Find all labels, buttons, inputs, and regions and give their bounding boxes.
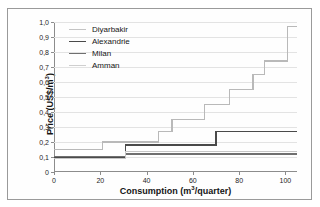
x-tick-label: 60 — [189, 177, 197, 184]
legend-swatch-icon — [69, 53, 86, 54]
y-tick-label: 0,9 — [39, 34, 49, 41]
y-tick-label: 0,8 — [39, 49, 49, 56]
x-tick-mark — [54, 172, 55, 175]
x-tick-label: 40 — [143, 177, 151, 184]
x-tick-mark — [147, 172, 148, 175]
y-tick-label: 0,5 — [39, 94, 49, 101]
x-tick-mark — [193, 172, 194, 175]
legend-label: Amman — [92, 61, 120, 70]
series-line-milan — [54, 154, 297, 156]
x-tick-mark — [285, 172, 286, 175]
legend-swatch-icon — [69, 41, 86, 42]
x-tick-mark — [239, 172, 240, 175]
x-axis-title: Consumption (m3/quarter) — [54, 185, 297, 196]
y-tick-label: 0,3 — [39, 124, 49, 131]
legend-swatch-icon — [69, 65, 86, 66]
y-tick-label: 0,7 — [39, 64, 49, 71]
y-tick-label: 0,2 — [39, 139, 49, 146]
y-tick-label: 0,6 — [39, 79, 49, 86]
y-tick-label: 1,0 — [39, 19, 49, 26]
legend-label: Diyarbakir — [92, 25, 128, 34]
legend-item-alexandrie: Alexandrie — [69, 35, 159, 47]
y-tick-label: 0,1 — [39, 154, 49, 161]
figure-frame: Price (US$/m3) Consumption (m3/quarter) … — [7, 8, 312, 200]
x-tick-label: 80 — [235, 177, 243, 184]
legend-item-diyarbakir: Diyarbakir — [69, 23, 159, 35]
x-tick-mark — [100, 172, 101, 175]
y-tick-label: 0 — [45, 169, 49, 176]
legend-swatch-icon — [69, 29, 86, 30]
legend-label: Milan — [92, 49, 111, 58]
legend-item-milan: Milan — [69, 47, 159, 59]
legend-label: Alexandrie — [92, 37, 130, 46]
x-tick-label: 20 — [96, 177, 104, 184]
y-tick-label: 0,4 — [39, 109, 49, 116]
x-tick-label: 0 — [52, 177, 56, 184]
x-axis-title-prefix: Consumption (m — [120, 186, 192, 196]
legend: DiyarbakirAlexandrieMilanAmman — [69, 23, 159, 71]
legend-item-amman: Amman — [69, 59, 159, 71]
cropped-header-sliver — [0, 0, 320, 7]
x-tick-label: 100 — [280, 177, 292, 184]
x-axis-title-suffix: /quarter) — [195, 186, 232, 196]
